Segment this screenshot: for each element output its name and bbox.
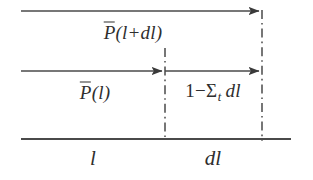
attenuation-label: 1−Σtdl <box>185 81 240 104</box>
middle-arrow-label: P(l) <box>80 83 110 102</box>
paren-close-top: ) <box>156 22 163 43</box>
attenuation-one: 1 <box>185 80 195 101</box>
argument-top: l+dl <box>122 22 156 43</box>
top-arrow-label: P(l+dl) <box>104 23 163 42</box>
axis-label-l: l <box>90 148 96 169</box>
transport-probability-diagram: P(l+dl) P(l) 1−Σtdl l dl <box>0 0 313 180</box>
sigma-symbol: Σ <box>206 80 217 101</box>
paren-close-mid: ) <box>104 82 111 103</box>
axis-label-dl: dl <box>205 148 222 169</box>
p-bar-overline-mid: P <box>80 83 92 102</box>
p-bar-overline-top: P <box>104 23 116 42</box>
attenuation-minus: − <box>195 80 206 101</box>
attenuation-dl: dl <box>222 80 240 101</box>
